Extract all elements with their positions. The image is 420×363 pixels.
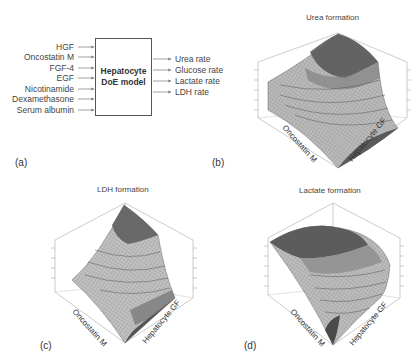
panel-a: HGF Oncostatin M FGF-4 EGF Nicotinamide … [0, 0, 210, 180]
panel-c: LDH formation [0, 180, 210, 363]
panel-d: Lactate formation [210, 180, 420, 363]
panel-b: Urea formation [210, 0, 420, 180]
panel-label-b: (b) [212, 157, 224, 168]
panel-label-d: (d) [244, 340, 256, 351]
model-title-line2: DoE model [101, 77, 147, 88]
model-title-line1: Hepatocyte [101, 66, 147, 77]
axis-label-oncostatin: Oncostatin M [71, 307, 109, 348]
output-label-ldh: LDH rate [175, 87, 209, 97]
surface-plot-ldh: Oncostatin M Hepatocyte GF [0, 180, 210, 363]
surface-plot-urea: Oncostatin M Hepatocyte GF [210, 0, 420, 180]
panel-label-c: (c) [40, 340, 52, 351]
doe-model-box: Hepatocyte DoE model [95, 38, 152, 116]
panel-label-a: (a) [15, 157, 27, 168]
output-label-urea: Urea rate [175, 54, 210, 64]
surface-plot-lactate: Oncostatin M Hepatocyte GF [210, 180, 420, 363]
